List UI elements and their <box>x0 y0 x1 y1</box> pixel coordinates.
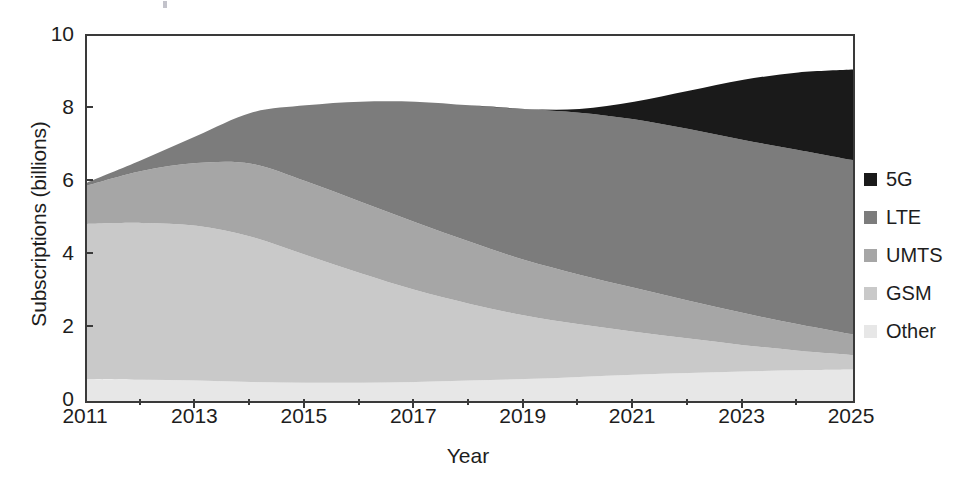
x-tick-mark-minor <box>576 399 578 405</box>
legend-swatch-icon <box>864 287 877 300</box>
area-series-svg <box>87 36 853 401</box>
x-tick-label: 2025 <box>811 404 891 428</box>
y-tick-label: 8 <box>18 95 74 119</box>
scan-artifact <box>163 1 167 8</box>
legend-label: LTE <box>886 206 921 229</box>
x-tick-mark <box>741 399 743 408</box>
legend-item-5g: 5G <box>864 160 964 198</box>
legend-swatch-icon <box>864 325 877 338</box>
x-tick-mark <box>522 399 524 408</box>
legend-item-gsm: GSM <box>864 274 964 312</box>
x-tick-mark-minor <box>467 399 469 405</box>
y-tick-label: 6 <box>18 168 74 192</box>
plot-area <box>85 34 855 403</box>
y-tick-mark <box>85 325 93 327</box>
legend: 5GLTEUMTSGSMOther <box>864 160 964 350</box>
y-axis-tick-labels: 0246810 <box>14 34 74 399</box>
legend-label: UMTS <box>886 244 943 267</box>
x-tick-label: 2011 <box>45 404 125 428</box>
legend-label: GSM <box>886 282 932 305</box>
legend-swatch-icon <box>864 249 877 262</box>
x-tick-mark-minor <box>248 399 250 405</box>
legend-label: 5G <box>886 168 913 191</box>
legend-label: Other <box>886 320 936 343</box>
legend-item-umts: UMTS <box>864 236 964 274</box>
legend-swatch-icon <box>864 211 877 224</box>
legend-item-other: Other <box>864 312 964 350</box>
x-tick-mark <box>631 399 633 408</box>
x-tick-mark <box>412 399 414 408</box>
y-tick-label: 4 <box>18 241 74 265</box>
x-tick-mark-minor <box>139 399 141 405</box>
x-tick-mark <box>193 399 195 408</box>
y-tick-mark <box>85 252 93 254</box>
stacked-area-chart-figure: Subscriptions (billions) 0246810 2011201… <box>0 0 965 489</box>
y-tick-mark <box>85 106 93 108</box>
legend-swatch-icon <box>864 173 877 186</box>
x-tick-mark-minor <box>358 399 360 405</box>
y-tick-label: 10 <box>18 22 74 46</box>
y-tick-label: 2 <box>18 314 74 338</box>
y-tick-mark <box>85 179 93 181</box>
x-tick-mark <box>303 399 305 408</box>
legend-item-lte: LTE <box>864 198 964 236</box>
x-tick-mark-minor <box>795 399 797 405</box>
x-axis-title: Year <box>85 444 851 468</box>
x-tick-mark-minor <box>686 399 688 405</box>
